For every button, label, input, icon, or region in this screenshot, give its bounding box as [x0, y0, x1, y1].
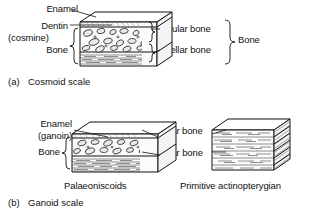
panel-a-brace-group: [225, 20, 235, 64]
panel-b-block-primitive-actinopterygian: [212, 119, 290, 172]
panel-b-brace-bone: [62, 137, 70, 169]
panel-a-block: [80, 12, 172, 66]
figure-canvas: Enamel Dentin (cosmine) Bone Vascular bo…: [0, 0, 312, 221]
panel-b-block-palaeoniscoids: [72, 122, 176, 172]
diagram-artwork: [0, 0, 312, 221]
panel-a-brace-bone: [70, 28, 78, 64]
